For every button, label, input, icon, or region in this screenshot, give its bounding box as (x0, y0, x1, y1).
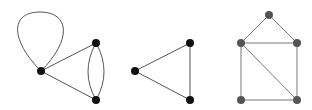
vertex-a (131, 67, 139, 75)
vertex-b (186, 39, 194, 47)
vertex-mr (293, 39, 301, 47)
graph-triangle (131, 39, 194, 104)
graph-multigraph-with-loop (18, 12, 104, 104)
edge-b-c-2 (96, 43, 104, 100)
edge-b-c-1 (88, 43, 96, 100)
vertex-top (265, 11, 273, 19)
vertex-c (92, 96, 100, 104)
vertex-c (186, 96, 194, 104)
vertex-b (92, 39, 100, 47)
vertex-br (293, 96, 301, 104)
graph-diagram-canvas (0, 0, 312, 110)
edge-loop-a (18, 12, 64, 71)
edge-top-ml (241, 15, 269, 43)
edge-top-mr (269, 15, 297, 43)
vertex-a (37, 67, 45, 75)
graph-house-with-diagonal (237, 11, 301, 104)
vertex-ml (237, 39, 245, 47)
graph-diagram (0, 0, 312, 110)
edge-a-b (135, 43, 190, 71)
edge-ml-br (241, 43, 297, 100)
edge-a-c (135, 71, 190, 100)
vertex-bl (237, 96, 245, 104)
